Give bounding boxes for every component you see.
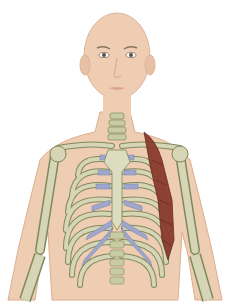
right-eye	[102, 53, 106, 57]
thorax-figure	[0, 0, 229, 304]
left-eye	[129, 53, 133, 57]
head	[80, 13, 155, 126]
anatomy-illustration	[0, 0, 229, 304]
